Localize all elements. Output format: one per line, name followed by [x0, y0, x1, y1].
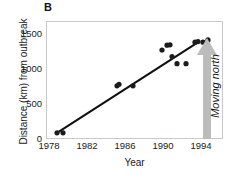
data-point [169, 54, 174, 59]
data-point [54, 130, 59, 135]
data-point [174, 61, 179, 66]
trend-line [57, 42, 199, 133]
y-axis-title: Distance (km) from outbreak [18, 12, 29, 152]
x-tick-label-1978: 1978 [29, 141, 69, 151]
x-tick-label-1994: 1994 [181, 141, 221, 151]
x-tick-label-1986: 1986 [105, 141, 145, 151]
data-point [167, 42, 172, 47]
x-tick-label-1982: 1982 [67, 141, 107, 151]
data-point [116, 82, 121, 87]
data-point [60, 130, 65, 135]
figure-panel-b: B 1500 1000 500 0 1978 1982 1986 1990 19… [0, 0, 231, 178]
x-tick-label-1990: 1990 [143, 141, 183, 151]
data-point [183, 61, 188, 66]
x-axis-title: Year [46, 157, 223, 168]
data-point [159, 47, 164, 52]
data-point [130, 83, 135, 88]
annotation-label-moving-north: Moving north [209, 43, 221, 129]
